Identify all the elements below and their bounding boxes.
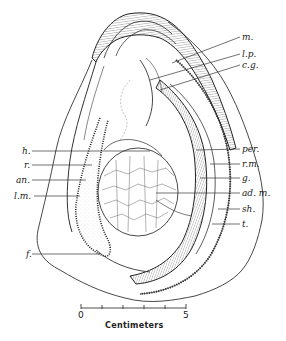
pericardium: [104, 139, 162, 156]
label-left-mantle: l.m.: [14, 191, 31, 201]
label-rectum: r.: [24, 160, 30, 170]
label-fold: f.: [26, 249, 32, 259]
gills: [130, 80, 207, 284]
scale-unit-label: Centimeters: [105, 321, 164, 330]
label-mantle: m.: [242, 32, 253, 42]
hinge-umbo: [92, 13, 236, 150]
mantle-margin-left: [76, 118, 110, 256]
label-heart: h.: [22, 146, 31, 156]
label-shell: sh.: [242, 204, 255, 214]
labial-palps: [140, 60, 153, 126]
gonad-reticulation: [102, 156, 176, 232]
scale-bar: [81, 304, 186, 309]
label-cerebral-ganglion: c.g.: [242, 60, 259, 70]
label-tentacles: t.: [242, 219, 248, 229]
label-adductor-muscle: ad. m.: [242, 188, 270, 198]
label-pericardium: per.: [242, 144, 259, 154]
label-labial-palp: l.p.: [242, 49, 256, 59]
adductor-muscle: [156, 200, 192, 216]
label-gills: g.: [242, 173, 251, 183]
label-retractor-muscle: r.m.: [242, 159, 260, 169]
scale-end-label: 5: [183, 310, 189, 320]
digestive-area: [120, 80, 130, 140]
scale-start-label: 0: [78, 310, 84, 320]
label-anus: an.: [16, 175, 30, 185]
visceral-mass: [98, 148, 178, 236]
